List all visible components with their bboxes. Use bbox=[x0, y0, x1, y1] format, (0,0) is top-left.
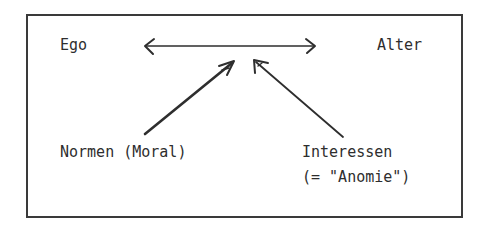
interessen-arrow-icon bbox=[254, 60, 343, 137]
normen-arrow-icon bbox=[145, 61, 234, 134]
arrows-layer bbox=[0, 0, 487, 229]
double-arrow-icon bbox=[145, 39, 315, 54]
